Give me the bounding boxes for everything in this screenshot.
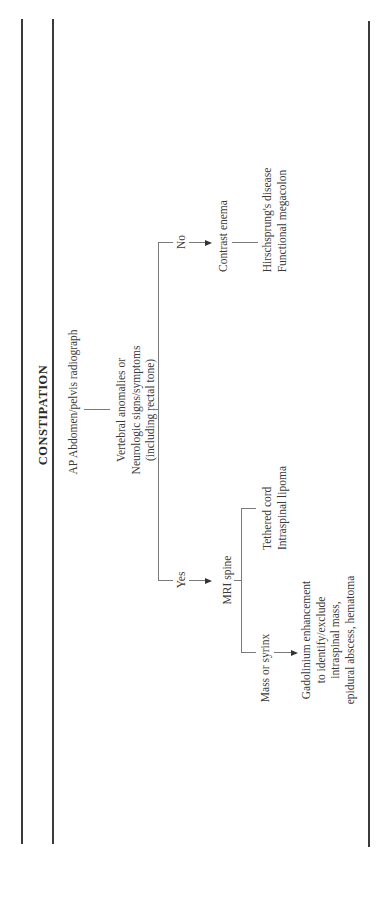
connector-question-branch: [151, 409, 158, 410]
yes-stub: [158, 580, 173, 581]
no-arrow-line: [189, 242, 206, 243]
node-gadolinium: Gadolinium enhancement to identify/exclu…: [299, 576, 357, 705]
gadolinium-line-1: Gadolinium enhancement: [299, 576, 314, 705]
branch-vertical: [158, 242, 159, 581]
question-line-3: (including rectal tone): [143, 346, 158, 475]
outcome-hirschsprung: Hirschsprung's disease: [260, 168, 275, 273]
no-arrow-icon: [205, 240, 212, 246]
gadolinium-line-3: intraspinal mass,: [328, 576, 343, 705]
connector-mri-branch: [234, 580, 241, 581]
question-line-1: Vertebral anomalies or: [114, 346, 129, 475]
mri-lower-stub: [241, 652, 256, 653]
node-question: Vertebral anomalies or Neurologic signs/…: [114, 346, 158, 475]
question-line-2: Neurologic signs/symptoms: [129, 346, 144, 475]
node-no-outcomes: Hirschsprung's disease Functional megaco…: [260, 168, 289, 273]
connector-enema-outcomes: [232, 242, 258, 243]
node-ap-radiograph: AP Abdomen/pelvis radiograph: [66, 329, 81, 474]
gadolinium-line-4: epidural abscess, hematoma: [343, 576, 358, 705]
mass-arrow-line: [274, 652, 292, 653]
mri-branch-vertical: [241, 508, 242, 652]
no-stub: [158, 242, 173, 243]
node-mri-spine: MRI spine: [220, 556, 235, 605]
gadolinium-line-2: to identify/exclude: [314, 576, 329, 705]
diagram-title: CONSTIPATION: [36, 365, 51, 466]
label-no: No: [174, 235, 189, 249]
outcome-functional-megacolon: Functional megacolon: [274, 168, 289, 273]
frame-rule-outer: [21, 19, 23, 844]
frame-rule-title: [52, 19, 54, 844]
node-contrast-enema: Contrast enema: [216, 200, 231, 272]
yes-arrow-line: [189, 580, 206, 581]
yes-arrow-icon: [205, 578, 212, 584]
mass-arrow-icon: [291, 650, 298, 656]
connector-start-question: [84, 409, 110, 410]
label-mass-or-syrinx: Mass or syrinx: [258, 634, 273, 702]
label-yes: Yes: [174, 572, 189, 589]
outcome-tethered-cord: Tethered cord: [260, 466, 275, 550]
node-mri-outcomes: Tethered cord Intraspinal lipoma: [260, 466, 289, 550]
frame-rule-bottom: [368, 21, 370, 847]
mri-upper-stub: [241, 508, 256, 509]
outcome-intraspinal-lipoma: Intraspinal lipoma: [274, 466, 289, 550]
